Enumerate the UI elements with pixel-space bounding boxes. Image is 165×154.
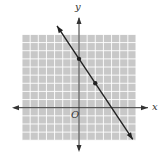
x-axis-arrow-left-icon [12,105,19,110]
y-axis-arrow-down-icon [77,145,82,152]
x-axis-arrow-right-icon [141,105,148,110]
origin-label: O [71,110,79,120]
line-arrow-start-icon [57,26,63,33]
data-point [93,81,97,85]
x-axis-label: x [152,102,158,112]
data-point [77,57,81,61]
coordinate-plane [0,0,165,154]
y-axis-arrow-up-icon [77,17,82,24]
y-axis-label: y [75,2,81,12]
